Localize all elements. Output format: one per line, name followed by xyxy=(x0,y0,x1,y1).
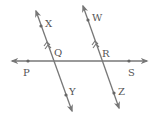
label-s: S xyxy=(128,67,135,78)
label-r: R xyxy=(102,48,110,59)
label-p: P xyxy=(23,67,30,78)
point-w-dot xyxy=(86,18,89,21)
point-x-dot xyxy=(39,24,42,27)
point-z-dot xyxy=(112,91,115,94)
label-w: W xyxy=(92,12,103,23)
label-x: X xyxy=(45,18,53,29)
label-q: Q xyxy=(54,47,62,58)
point-y-dot xyxy=(64,93,67,96)
point-s-dot xyxy=(127,59,130,62)
label-y: Y xyxy=(68,86,76,97)
geometry-diagram: X Q Y W R Z P S xyxy=(0,0,156,120)
label-z: Z xyxy=(118,86,125,97)
point-p-dot xyxy=(26,59,29,62)
